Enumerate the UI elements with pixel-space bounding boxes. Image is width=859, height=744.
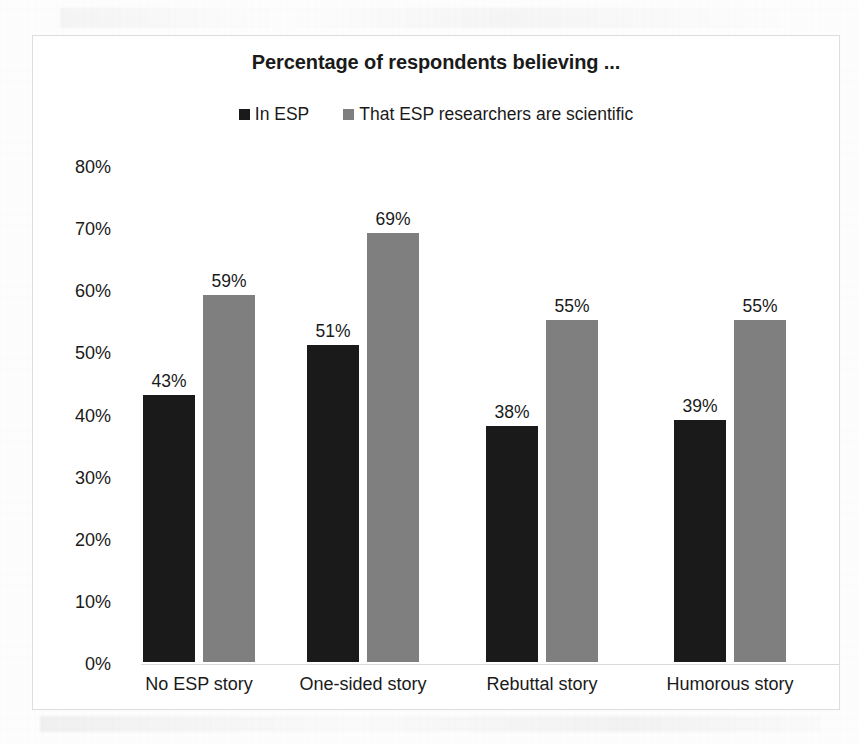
y-axis-tick-label: 20% — [33, 529, 111, 550]
bar-value-label: 43% — [151, 371, 186, 392]
x-axis-category-label: Rebuttal story — [486, 674, 597, 695]
y-axis-tick-label: 0% — [33, 654, 111, 675]
bar[interactable] — [486, 426, 538, 662]
bar-value-label: 55% — [554, 296, 589, 317]
bar[interactable] — [674, 420, 726, 662]
y-axis-tick-label: 30% — [33, 467, 111, 488]
x-axis-line — [141, 664, 839, 665]
bar-value-label: 59% — [211, 271, 246, 292]
bar[interactable] — [546, 320, 598, 662]
y-axis-tick-label: 60% — [33, 281, 111, 302]
bar-value-label: 51% — [315, 321, 350, 342]
bar-value-label: 39% — [682, 396, 717, 417]
y-axis-tick-label: 40% — [33, 405, 111, 426]
y-axis-tick-label: 70% — [33, 219, 111, 240]
scan-artifact-top — [60, 8, 800, 28]
bar[interactable] — [143, 395, 195, 662]
bar[interactable] — [307, 345, 359, 662]
x-axis-category-label: Humorous story — [666, 674, 793, 695]
x-axis-category-label: One-sided story — [299, 674, 426, 695]
bar-value-label: 69% — [375, 209, 410, 230]
x-axis-category-label: No ESP story — [145, 674, 253, 695]
bar[interactable] — [367, 233, 419, 662]
bar[interactable] — [734, 320, 786, 662]
scan-artifact-bottom — [40, 716, 820, 732]
bar-value-label: 38% — [494, 402, 529, 423]
bar[interactable] — [203, 295, 255, 662]
bar-value-label: 55% — [742, 296, 777, 317]
y-axis-tick-label: 50% — [33, 343, 111, 364]
plot-area: 0%10%20%30%40%50%60%70%80% 43%59%51%69%3… — [33, 36, 839, 709]
y-axis-tick-label: 80% — [33, 157, 111, 178]
chart-frame: Percentage of respondents believing ... … — [32, 35, 840, 710]
y-axis-tick-label: 10% — [33, 591, 111, 612]
